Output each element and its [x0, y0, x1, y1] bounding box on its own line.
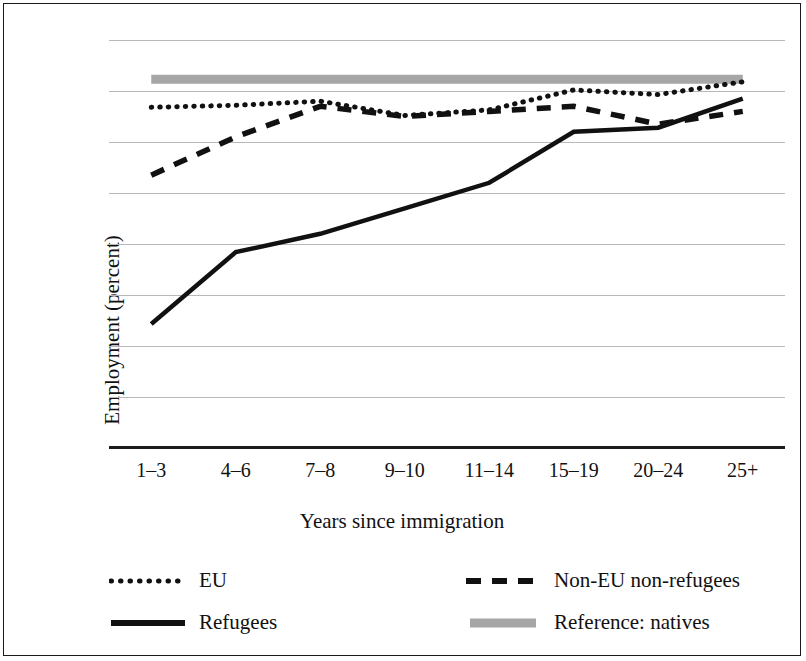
- legend-label: Refugees: [199, 612, 277, 633]
- series-line: [151, 99, 743, 324]
- series-line: [151, 82, 743, 116]
- thick-gray-line-icon: [464, 615, 542, 631]
- plot-area: 01020304050607080 1–34–67–89–1011–1415–1…: [109, 40, 785, 448]
- x-axis-tick-label: 20–24: [633, 460, 683, 480]
- x-axis-tick-label: 7–8: [305, 460, 335, 480]
- series-lines: [109, 40, 785, 448]
- legend-label: Reference: natives: [554, 612, 710, 633]
- dotted-line-icon: [109, 573, 187, 589]
- x-axis-tick-label: 9–10: [385, 460, 425, 480]
- chart-legend: EU Non-EU non-refugees Refugees Referenc…: [109, 562, 785, 642]
- x-axis-tick-label: 11–14: [465, 460, 514, 480]
- legend-item-eu: EU: [109, 570, 227, 591]
- x-axis-tick-label: 15–19: [549, 460, 599, 480]
- solid-line-icon: [109, 615, 187, 631]
- x-axis-tick-label: 25+: [727, 460, 758, 480]
- legend-label: EU: [199, 570, 227, 591]
- x-axis-tick-label: 4–6: [221, 460, 251, 480]
- legend-item-refugees: Refugees: [109, 612, 277, 633]
- x-axis-line: [109, 446, 785, 449]
- dashed-line-icon: [464, 573, 542, 589]
- legend-label: Non-EU non-refugees: [554, 570, 740, 591]
- legend-item-non-eu: Non-EU non-refugees: [464, 570, 740, 591]
- x-axis-title: Years since immigration: [4, 509, 800, 534]
- chart-frame: Employment (percent) 01020304050607080 1…: [3, 3, 801, 656]
- legend-item-natives: Reference: natives: [464, 612, 710, 633]
- series-line: [151, 106, 743, 175]
- x-axis-tick-label: 1–3: [136, 460, 166, 480]
